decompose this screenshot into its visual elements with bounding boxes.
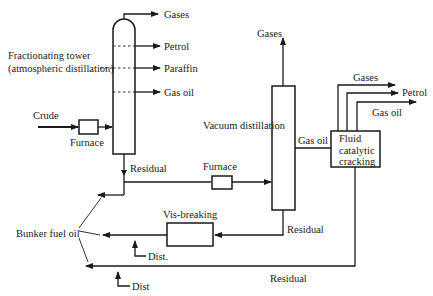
label-atmospheric-distillation: (atmospheric distillation) (8, 63, 114, 75)
arrow-gases-1 (124, 14, 158, 19)
vis-breaking-box (167, 223, 213, 246)
label-fcc-petrol: Petrol (402, 87, 427, 98)
arrow-dist-2 (118, 272, 130, 286)
label-residual-fcc: Residual (270, 273, 307, 284)
fractionating-tower (113, 19, 135, 154)
label-gasoil-vacuum: Gas oil (298, 135, 328, 146)
label-gases-1: Gases (164, 9, 189, 20)
label-dist-2: Dist (132, 281, 150, 292)
refinery-flow-diagram: Gases Petrol Paraffin Gas oil Fractionat… (0, 0, 433, 296)
label-furnace-2: Furnace (203, 161, 237, 172)
label-fcc-gases: Gases (353, 72, 378, 83)
label-bunker-fuel-oil: Bunker fuel oil (16, 228, 80, 239)
label-crude: Crude (33, 110, 59, 121)
label-gases-vacuum: Gases (257, 28, 282, 39)
label-fcc-gasoil: Gas oil (372, 107, 402, 118)
label-dist-1: Dist. (148, 251, 168, 262)
label-fractionating-tower: Fractionating tower (8, 50, 91, 61)
label-paraffin: Paraffin (164, 63, 198, 74)
label-vis-breaking: Vis-breaking (163, 209, 218, 220)
bunker-leader-mid (79, 231, 100, 235)
label-fcc-3: cracking (339, 156, 376, 167)
label-petrol-1: Petrol (164, 41, 189, 52)
label-vacuum-distillation: Vacuum distillation (203, 120, 286, 131)
label-fcc-2: catalytic (339, 145, 375, 156)
bunker-leader-top (79, 198, 101, 228)
label-furnace-1: Furnace (70, 137, 104, 148)
label-residual-vacuum: Residual (287, 224, 324, 235)
vacuum-tower (272, 86, 295, 210)
arrow-dist-1 (135, 241, 146, 256)
label-gasoil-1: Gas oil (164, 87, 194, 98)
furnace-2-box (212, 176, 232, 189)
vacuum-residual-line (215, 210, 283, 235)
label-fcc-1: Fluid (339, 133, 362, 144)
label-residual-1: Residual (130, 163, 167, 174)
residual-arrowhead (121, 170, 127, 176)
furnace-1-box (79, 120, 98, 134)
bunker-leader-bottom (79, 238, 88, 262)
